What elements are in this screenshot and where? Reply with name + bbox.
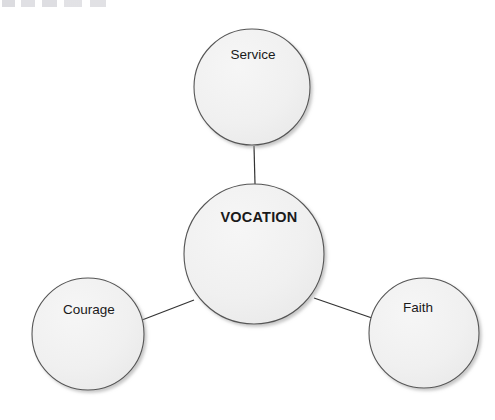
diagram-canvas: Service Courage Faith VOCATION — [0, 0, 495, 420]
node-service[interactable]: Service — [194, 29, 310, 145]
connector-vocation-service — [254, 146, 255, 184]
node-service-label: Service — [230, 47, 275, 62]
node-vocation-circle[interactable] — [184, 184, 324, 324]
node-courage-label: Courage — [63, 302, 115, 317]
node-courage-circle[interactable] — [32, 278, 144, 390]
node-faith-label: Faith — [403, 300, 433, 315]
vocation-diagram: Service Courage Faith VOCATION — [0, 0, 495, 420]
node-faith[interactable]: Faith — [369, 278, 479, 388]
node-courage[interactable]: Courage — [32, 278, 144, 390]
node-vocation-label: VOCATION — [220, 209, 297, 225]
node-vocation[interactable]: VOCATION — [184, 184, 324, 324]
connector-vocation-faith — [314, 298, 372, 318]
connector-vocation-courage — [142, 300, 194, 320]
node-faith-circle[interactable] — [369, 278, 479, 388]
